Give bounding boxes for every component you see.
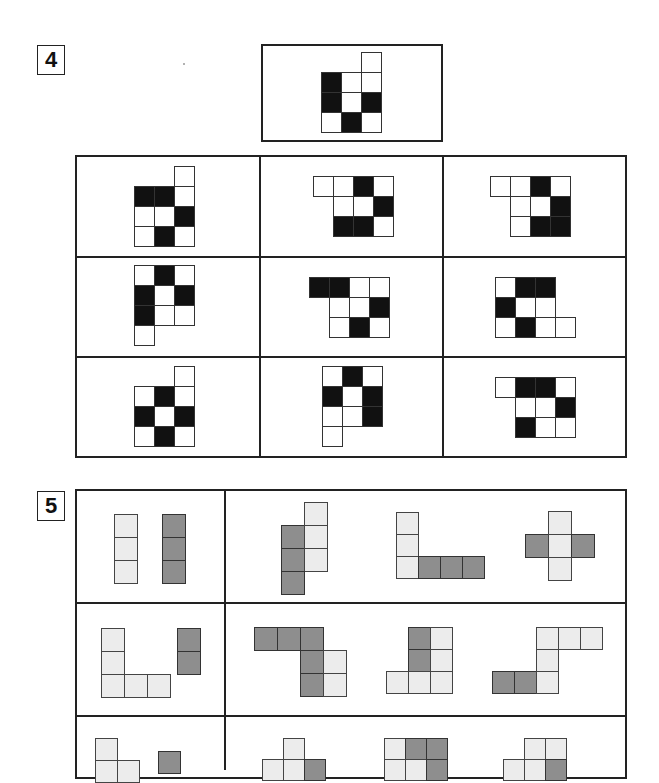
- light-square: [580, 627, 603, 650]
- white-square: [134, 325, 155, 346]
- white-square: [134, 206, 155, 227]
- light-square: [323, 673, 347, 697]
- white-square: [369, 277, 390, 298]
- black-square: [154, 265, 175, 286]
- gray-square: [281, 571, 305, 595]
- black-square: [515, 317, 536, 338]
- light-square: [396, 512, 419, 535]
- white-square: [373, 176, 394, 197]
- black-square: [495, 297, 516, 318]
- white-square: [490, 176, 511, 197]
- white-square: [154, 406, 175, 427]
- white-square: [154, 305, 175, 326]
- white-square: [362, 366, 383, 387]
- black-square: [530, 176, 551, 197]
- section-4-label: 4: [37, 45, 65, 75]
- light-square: [283, 738, 305, 760]
- white-square: [555, 377, 576, 398]
- light-square: [558, 627, 581, 650]
- white-square: [154, 206, 175, 227]
- black-square: [341, 112, 362, 133]
- light-square: [545, 738, 567, 760]
- white-square: [174, 386, 195, 407]
- light-square: [117, 760, 140, 783]
- black-square: [342, 366, 363, 387]
- white-square: [353, 196, 374, 217]
- section-number: 4: [45, 47, 57, 73]
- white-square: [134, 265, 155, 286]
- gray-square: [418, 556, 441, 579]
- light-square: [101, 651, 125, 675]
- gray-square: [408, 649, 431, 672]
- black-square: [154, 386, 175, 407]
- white-square: [154, 285, 175, 306]
- gray-square: [440, 556, 463, 579]
- light-square: [262, 759, 284, 781]
- light-square: [147, 674, 171, 698]
- white-square: [342, 406, 363, 427]
- gray-square: [426, 738, 448, 760]
- light-square: [430, 671, 453, 694]
- black-square: [154, 186, 175, 207]
- white-square: [321, 112, 342, 133]
- light-square: [304, 502, 328, 526]
- white-square: [535, 397, 556, 418]
- black-square: [333, 216, 354, 237]
- white-square: [134, 226, 155, 247]
- light-square: [283, 759, 305, 781]
- light-square: [524, 738, 546, 760]
- black-square: [349, 317, 370, 338]
- gray-square: [300, 673, 324, 697]
- black-square: [353, 176, 374, 197]
- white-square: [174, 366, 195, 387]
- black-square: [373, 196, 394, 217]
- white-square: [535, 417, 556, 438]
- white-square: [510, 216, 531, 237]
- gray-square: [426, 759, 448, 781]
- white-square: [495, 277, 516, 298]
- black-square: [134, 186, 155, 207]
- black-square: [550, 196, 571, 217]
- white-square: [342, 386, 363, 407]
- white-square: [510, 176, 531, 197]
- white-square: [174, 166, 195, 187]
- gray-square: [162, 560, 186, 584]
- gray-square: [492, 671, 515, 694]
- black-square: [322, 386, 343, 407]
- black-square: [362, 386, 383, 407]
- black-square: [309, 277, 330, 298]
- gray-square: [462, 556, 485, 579]
- white-square: [515, 297, 536, 318]
- black-square: [555, 397, 576, 418]
- white-square: [134, 386, 155, 407]
- light-square: [114, 537, 138, 561]
- black-square: [515, 417, 536, 438]
- black-square: [361, 92, 382, 113]
- light-square: [101, 628, 125, 652]
- light-square: [101, 674, 125, 698]
- white-square: [313, 176, 334, 197]
- gray-square: [281, 525, 305, 549]
- white-square: [329, 297, 350, 318]
- gray-square: [571, 534, 595, 558]
- white-square: [333, 176, 354, 197]
- black-square: [134, 406, 155, 427]
- white-square: [555, 317, 576, 338]
- gray-square: [525, 534, 549, 558]
- black-square: [321, 72, 342, 93]
- light-square: [384, 738, 406, 760]
- white-square: [322, 366, 343, 387]
- gray-square: [300, 627, 324, 651]
- gray-square: [281, 548, 305, 572]
- white-square: [361, 52, 382, 73]
- white-square: [361, 112, 382, 133]
- black-square: [530, 216, 551, 237]
- black-square: [154, 426, 175, 447]
- gray-square: [545, 759, 567, 781]
- light-square: [536, 627, 559, 650]
- white-square: [174, 426, 195, 447]
- light-square: [304, 548, 328, 572]
- black-square: [353, 216, 374, 237]
- white-square: [174, 186, 195, 207]
- gray-square: [514, 671, 537, 694]
